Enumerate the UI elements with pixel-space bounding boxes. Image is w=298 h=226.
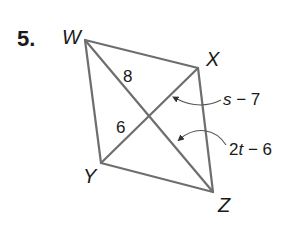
expression-2t-minus-6: 2t − 6 [229,140,272,159]
expr1-rest: − 7 [232,90,261,109]
expr2-rest: − 6 [243,140,272,159]
arrow-2t-minus-6 [180,131,226,145]
vertex-label-w: W [62,26,83,48]
arrow-s-minus-7 [175,98,221,105]
expr2-coef: 2 [229,140,238,159]
expression-s-minus-7: s − 7 [223,90,260,109]
diagonal-xy [101,68,198,163]
side-wx [85,40,198,68]
segment-label-6: 6 [116,118,125,137]
side-yw [85,40,101,163]
segment-label-8: 8 [123,67,132,86]
problem-number: 5. [17,26,35,51]
side-zy [101,163,213,192]
rhombus-diagram: 5. W X Y Z 8 6 s − 7 2t − 6 [0,0,298,226]
vertex-label-z: Z [217,194,231,216]
vertex-label-y: Y [83,165,98,187]
vertex-label-x: X [205,48,220,70]
